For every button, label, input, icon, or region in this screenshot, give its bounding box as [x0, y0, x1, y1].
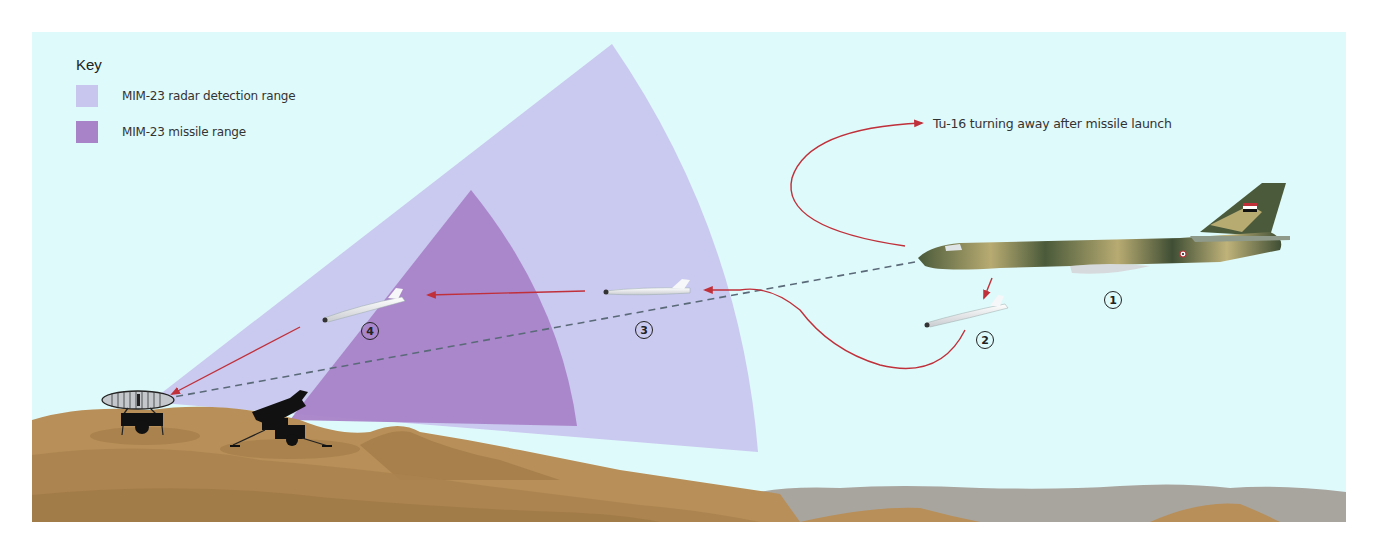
legend-label: MIM-23 missile range	[122, 125, 246, 139]
legend-swatch-missile-range	[76, 121, 98, 143]
legend-swatch-radar-range	[76, 85, 98, 107]
marker-3: 3	[635, 321, 653, 339]
legend-label: MIM-23 radar detection range	[122, 89, 295, 103]
marker-1: 1	[1104, 291, 1122, 309]
marker-2: 2	[976, 331, 994, 349]
legend-item-radar-range: MIM-23 radar detection range	[76, 85, 295, 107]
turn-away-annotation: Tu-16 turning away after missile launch	[933, 116, 1172, 131]
diagram-canvas: Key MIM-23 radar detection range MIM-23 …	[0, 0, 1377, 549]
legend: Key MIM-23 radar detection range MIM-23 …	[76, 56, 295, 157]
marker-4: 4	[361, 322, 379, 340]
legend-title: Key	[76, 56, 295, 73]
legend-item-missile-range: MIM-23 missile range	[76, 121, 295, 143]
